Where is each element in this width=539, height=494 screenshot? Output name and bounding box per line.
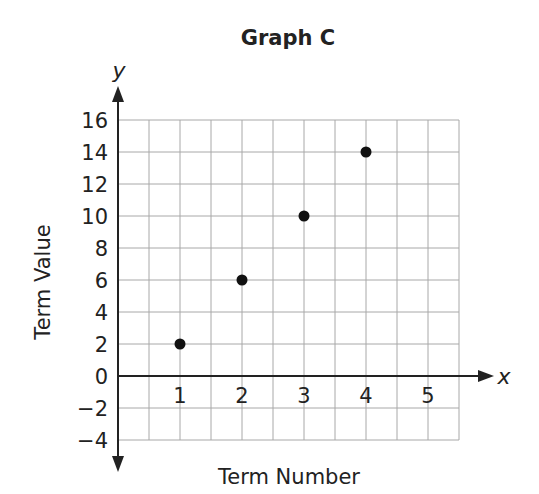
- x-tick-label: 4: [359, 384, 372, 408]
- data-point: [237, 275, 248, 286]
- axes: [112, 86, 494, 472]
- x-axis-name: x: [496, 364, 511, 389]
- x-tick-label: 3: [297, 384, 310, 408]
- y-tick-label: −4: [77, 429, 108, 453]
- data-point: [175, 339, 186, 350]
- grid: [118, 120, 459, 440]
- y-tick-labels: 1614121086420−2−4: [77, 109, 108, 453]
- y-tick-label: −2: [77, 397, 108, 421]
- y-tick-label: 0: [95, 365, 108, 389]
- y-axis-arrow-up-icon: [112, 86, 124, 102]
- y-tick-label: 16: [81, 109, 108, 133]
- x-axis-arrow-icon: [478, 370, 494, 382]
- y-axis-name: y: [111, 58, 126, 83]
- x-tick-label: 5: [421, 384, 434, 408]
- y-tick-label: 6: [95, 269, 108, 293]
- y-tick-label: 2: [95, 333, 108, 357]
- y-axis-arrow-down-icon: [112, 456, 124, 472]
- y-tick-label: 10: [81, 205, 108, 229]
- y-tick-label: 12: [81, 173, 108, 197]
- y-tick-label: 8: [95, 237, 108, 261]
- data-point: [361, 147, 372, 158]
- x-tick-label: 1: [173, 384, 186, 408]
- y-tick-label: 4: [95, 301, 108, 325]
- x-tick-label: 2: [235, 384, 248, 408]
- x-tick-labels: 12345: [173, 384, 434, 408]
- data-point: [299, 211, 310, 222]
- chart-title: Graph C: [241, 26, 335, 50]
- y-axis-label: Term Value: [31, 224, 55, 340]
- chart: 1614121086420−2−4 12345 Graph C y x Term…: [0, 0, 539, 494]
- y-tick-label: 14: [81, 141, 108, 165]
- x-axis-label: Term Number: [217, 465, 360, 489]
